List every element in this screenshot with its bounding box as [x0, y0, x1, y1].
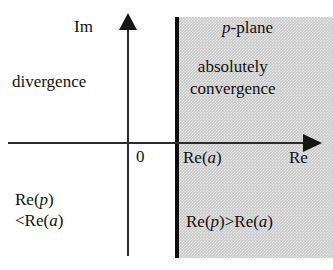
divergence-condition-line1: Re(p): [15, 190, 63, 210]
convergence-condition-suffix: ): [267, 212, 273, 231]
divergence-region-label: divergence: [12, 72, 86, 92]
imaginary-axis-line: [127, 26, 129, 256]
plane-label-suffix: -plane: [231, 18, 273, 37]
plane-label-variable: p: [222, 18, 231, 37]
convergence-region-label-line2: convergence: [190, 79, 276, 99]
real-axis-label: Re: [289, 148, 308, 168]
boundary-axis-label: Re(a): [183, 148, 222, 168]
divergence-condition-line2-variable: a: [49, 211, 58, 230]
origin-label: 0: [136, 147, 145, 167]
boundary-label-suffix: ): [216, 148, 222, 167]
plane-label: p-plane: [222, 18, 273, 38]
convergence-condition-variable-p: p: [211, 212, 220, 231]
convergence-condition-prefix: Re(: [186, 212, 211, 231]
convergence-condition-label: Re(p)>Re(a): [186, 212, 273, 232]
divergence-condition-label: Re(p) <Re(a): [15, 190, 63, 231]
divergence-condition-line2: <Re(a): [15, 211, 63, 231]
imaginary-axis-label: Im: [74, 17, 93, 37]
divergence-condition-line1-variable: p: [40, 190, 49, 209]
real-axis-line: [8, 142, 305, 144]
divergence-condition-line1-prefix: Re(: [15, 190, 40, 209]
divergence-condition-line2-suffix: ): [58, 211, 64, 230]
boundary-label-prefix: Re(: [183, 148, 208, 167]
boundary-label-variable: a: [208, 148, 217, 167]
imaginary-axis-arrow-icon: [119, 13, 137, 30]
divergence-condition-line1-suffix: ): [48, 190, 54, 209]
convergence-region-label: absolutely convergence: [190, 57, 276, 99]
complex-plane-diagram: Im divergence p-plane absolutely converg…: [0, 0, 333, 270]
divergence-condition-line2-prefix: <Re(: [15, 211, 49, 230]
convergence-region-label-line1: absolutely: [190, 57, 276, 77]
convergence-boundary-line: [175, 17, 179, 258]
convergence-condition-mid: )>Re(: [219, 212, 259, 231]
